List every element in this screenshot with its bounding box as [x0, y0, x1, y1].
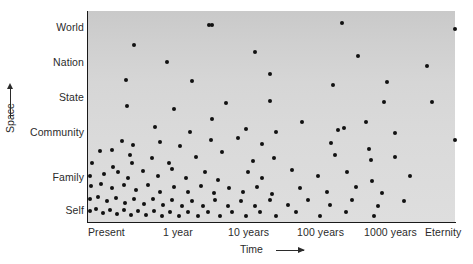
data-point	[325, 190, 329, 194]
data-point	[380, 191, 384, 195]
data-point	[161, 203, 165, 207]
y-axis-line	[87, 11, 88, 223]
data-point	[123, 201, 127, 205]
data-point	[376, 204, 380, 208]
data-point	[110, 186, 114, 190]
data-point	[336, 128, 340, 132]
x-axis-tick-label: 1000 years	[364, 226, 417, 238]
data-point	[230, 210, 234, 214]
data-point	[268, 99, 272, 103]
data-point	[453, 27, 457, 31]
data-point	[130, 161, 134, 165]
data-point	[251, 159, 255, 163]
data-point	[88, 197, 92, 201]
y-axis-tick-label: Family	[0, 171, 84, 183]
data-point	[369, 158, 373, 162]
data-point	[318, 214, 322, 218]
data-point	[286, 203, 290, 207]
data-point	[124, 78, 128, 82]
data-point	[122, 208, 126, 212]
data-point	[333, 153, 337, 157]
data-point	[354, 185, 358, 189]
data-point	[209, 138, 213, 142]
data-point	[144, 213, 148, 217]
data-point	[186, 190, 190, 194]
x-axis-tick-labels: Present1 year10 years100 years1000 years…	[0, 226, 473, 242]
data-point	[393, 155, 397, 159]
data-point	[350, 198, 354, 202]
data-point	[370, 179, 374, 183]
data-point	[111, 165, 115, 169]
x-axis-tick-label: Present	[88, 226, 125, 238]
data-point	[141, 169, 145, 173]
y-axis-tick-label: Nation	[0, 56, 84, 68]
data-point	[210, 23, 214, 27]
data-point	[270, 192, 274, 196]
data-point	[190, 199, 194, 203]
data-point	[170, 198, 174, 202]
data-point	[258, 210, 262, 214]
data-point	[151, 197, 155, 201]
data-point	[150, 156, 154, 160]
data-point	[131, 143, 135, 147]
data-point	[120, 139, 124, 143]
y-axis-tick-label: World	[0, 21, 84, 33]
data-point	[129, 213, 133, 217]
data-point	[177, 214, 181, 218]
right-arrow-icon	[276, 250, 304, 251]
data-point	[128, 153, 132, 157]
data-point	[306, 198, 310, 202]
data-point	[300, 120, 304, 124]
x-axis-tick-label: 1 year	[163, 226, 193, 238]
data-point	[274, 130, 278, 134]
x-axis-tick-label: Eternity	[425, 226, 461, 238]
data-point	[218, 214, 222, 218]
data-point	[102, 172, 106, 176]
data-point	[382, 100, 386, 104]
data-point	[385, 80, 389, 84]
data-point	[364, 120, 368, 124]
data-point	[101, 211, 105, 215]
data-point	[253, 204, 257, 208]
data-point	[226, 204, 230, 208]
data-point	[372, 214, 376, 218]
data-point	[402, 199, 406, 203]
data-point	[268, 198, 272, 202]
data-point	[98, 149, 102, 153]
data-point	[294, 210, 298, 214]
data-point	[241, 190, 245, 194]
data-point	[158, 140, 162, 144]
data-point	[116, 170, 120, 174]
data-point	[99, 182, 103, 186]
data-point	[260, 176, 264, 180]
data-point	[158, 190, 162, 194]
data-point	[122, 183, 126, 187]
data-point	[201, 204, 205, 208]
data-point	[239, 199, 243, 203]
data-point	[199, 184, 203, 188]
data-point	[172, 185, 176, 189]
data-point	[206, 210, 210, 214]
data-point	[255, 185, 259, 189]
data-point	[89, 184, 93, 188]
data-point	[153, 125, 157, 129]
data-point	[126, 176, 130, 180]
data-point	[188, 130, 192, 134]
data-point	[203, 170, 207, 174]
data-point	[156, 174, 160, 178]
data-point	[178, 144, 182, 148]
y-axis-title-label: Space	[4, 96, 16, 140]
data-point	[274, 214, 278, 218]
data-point	[146, 183, 150, 187]
data-point	[134, 188, 138, 192]
data-point	[115, 212, 119, 216]
data-point	[152, 209, 156, 213]
data-point	[260, 142, 264, 146]
data-point	[110, 148, 114, 152]
data-point	[408, 174, 412, 178]
data-point	[367, 147, 371, 151]
y-axis-title: Space	[2, 88, 18, 164]
data-point	[216, 178, 220, 182]
data-point	[425, 64, 429, 68]
data-point	[168, 210, 172, 214]
